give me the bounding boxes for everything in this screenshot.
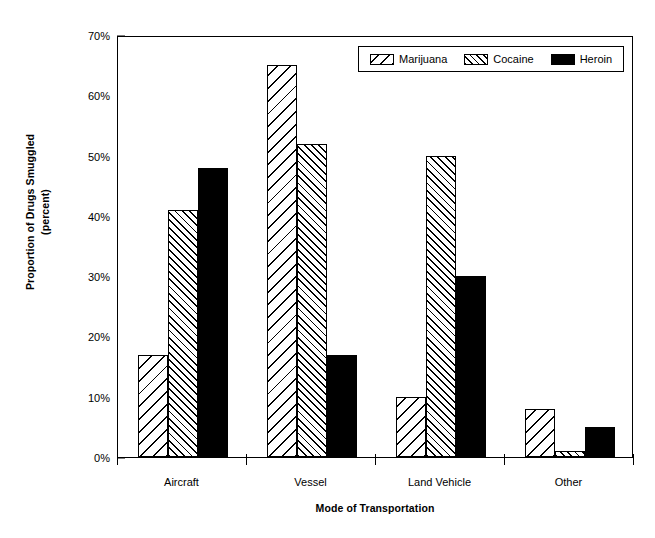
x-axis-tick-mark xyxy=(246,454,247,465)
y-axis-tick-label: 20% xyxy=(64,331,110,343)
x-axis-category-label-vessel: Vessel xyxy=(294,476,326,488)
plot-area xyxy=(117,36,633,458)
y-axis-title-line2: (percent) xyxy=(38,97,53,327)
x-axis-tick-marks xyxy=(117,458,633,468)
legend-label: Heroin xyxy=(580,53,612,65)
bar-other-heroin xyxy=(585,427,615,457)
bars-container xyxy=(118,37,632,457)
bar-chart: Proportion of Drugs Smuggled (percent) 0… xyxy=(0,0,655,538)
y-axis-tick-label: 60% xyxy=(64,90,110,102)
y-axis-tick-label: 50% xyxy=(64,151,110,163)
y-axis-title-line1: Proportion of Drugs Smuggled xyxy=(24,134,36,290)
legend-swatch-cocaine-icon xyxy=(464,54,488,65)
x-axis-tick-mark xyxy=(504,454,505,465)
y-axis-tick-label: 30% xyxy=(64,271,110,283)
legend-item-cocaine: Cocaine xyxy=(464,53,533,65)
bar-other-marijuana xyxy=(525,409,555,457)
legend-swatch-heroin-icon xyxy=(551,54,575,65)
legend-label: Marijuana xyxy=(399,53,447,65)
chart-legend: MarijuanaCocaineHeroin xyxy=(358,46,624,72)
bar-vessel-marijuana xyxy=(267,65,297,457)
x-axis-tick-mark xyxy=(375,454,376,465)
legend-item-heroin: Heroin xyxy=(551,53,612,65)
bar-land-vehicle-marijuana xyxy=(396,397,426,457)
bar-vessel-cocaine xyxy=(297,144,327,457)
bar-aircraft-marijuana xyxy=(138,355,168,457)
legend-item-marijuana: Marijuana xyxy=(370,53,447,65)
bar-aircraft-cocaine xyxy=(168,210,198,457)
bar-land-vehicle-cocaine xyxy=(426,156,456,457)
y-axis-tick-labels: 0%10%20%30%40%50%60%70% xyxy=(58,36,110,458)
bar-vessel-heroin xyxy=(327,355,357,457)
y-axis-tick-label: 0% xyxy=(64,452,110,464)
x-axis-tick-mark xyxy=(633,454,634,465)
x-axis-category-label-other: Other xyxy=(555,476,583,488)
bar-other-cocaine xyxy=(555,451,585,457)
legend-swatch-marijuana-icon xyxy=(370,54,394,65)
y-axis-tick-label: 70% xyxy=(64,30,110,42)
x-axis-category-label-land-vehicle: Land Vehicle xyxy=(408,476,471,488)
y-axis-tick-label: 40% xyxy=(64,211,110,223)
x-axis-tick-labels: AircraftVesselLand VehicleOther xyxy=(117,476,633,496)
x-axis-category-label-aircraft: Aircraft xyxy=(164,476,199,488)
x-axis-tick-mark xyxy=(117,454,118,465)
bar-aircraft-heroin xyxy=(198,168,228,457)
y-axis-tick-label: 10% xyxy=(64,392,110,404)
legend-label: Cocaine xyxy=(493,53,533,65)
x-axis-title: Mode of Transportation xyxy=(117,502,633,514)
y-axis-title: Proportion of Drugs Smuggled (percent) xyxy=(23,97,63,327)
bar-land-vehicle-heroin xyxy=(456,276,486,457)
